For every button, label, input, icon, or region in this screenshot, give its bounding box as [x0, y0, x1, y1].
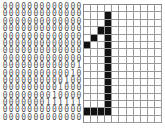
grid-cell: [119, 20, 126, 27]
matrix-row: 0000000000000: [2, 114, 82, 121]
grid-cell: [119, 5, 126, 12]
grid-cell: [155, 86, 162, 93]
grid-cell: [141, 49, 148, 56]
grid-cell: [127, 101, 134, 108]
grid-cell: [98, 27, 105, 34]
grid-cell: [105, 116, 112, 123]
grid-cell: [105, 86, 112, 93]
grid-cell: [155, 101, 162, 108]
grid-cell: [98, 86, 105, 93]
grid-cell: [148, 94, 155, 101]
grid-cell: [105, 20, 112, 27]
grid-cell: [127, 79, 134, 86]
grid-cell: [84, 116, 91, 123]
grid-cell: [84, 5, 91, 12]
grid-cell: [84, 12, 91, 19]
grid-cell: [112, 64, 119, 71]
grid-cell: [105, 5, 112, 12]
grid-cell: [112, 86, 119, 93]
grid-cell: [155, 27, 162, 34]
grid-cell: [112, 20, 119, 27]
grid-cell: [105, 12, 112, 19]
grid-cell: [141, 72, 148, 79]
grid-cell: [91, 79, 98, 86]
grid-cell: [91, 57, 98, 64]
grid-cell: [98, 12, 105, 19]
grid-cell: [98, 35, 105, 42]
grid-cell: [84, 57, 91, 64]
grid-cell: [127, 94, 134, 101]
grid-cell: [127, 108, 134, 115]
grid-cell: [141, 108, 148, 115]
grid-cell: [84, 27, 91, 34]
matrix-digit: 0: [76, 114, 82, 121]
grid-cell: [105, 72, 112, 79]
grid-cell: [141, 64, 148, 71]
grid-cell: [105, 35, 112, 42]
grid-cell: [112, 57, 119, 64]
grid-cell: [134, 42, 141, 49]
grid-cell: [112, 35, 119, 42]
grid-cell: [148, 35, 155, 42]
grid-cell: [155, 79, 162, 86]
grid-cell: [148, 20, 155, 27]
grid-cell: [134, 116, 141, 123]
grid-cell: [134, 72, 141, 79]
grid-cell: [119, 64, 126, 71]
grid-cell: [141, 116, 148, 123]
grid-cell: [91, 108, 98, 115]
grid-cell: [155, 12, 162, 19]
grid-cell: [98, 57, 105, 64]
grid-cell: [119, 116, 126, 123]
grid-cell: [105, 64, 112, 71]
grid-cell: [112, 101, 119, 108]
grid-cell: [98, 116, 105, 123]
grid-cell: [105, 42, 112, 49]
grid-cell: [148, 49, 155, 56]
grid-cell: [155, 108, 162, 115]
grid-cell: [148, 101, 155, 108]
grid-cell: [105, 101, 112, 108]
grid-cell: [134, 86, 141, 93]
grid-cell: [141, 27, 148, 34]
grid-cell: [91, 64, 98, 71]
grid-cell: [91, 94, 98, 101]
grid-cell: [112, 12, 119, 19]
grid-cell: [105, 49, 112, 56]
grid-cell: [84, 94, 91, 101]
grid-cell: [112, 116, 119, 123]
grid-cell: [98, 49, 105, 56]
grid-cell: [155, 57, 162, 64]
grid-cell: [134, 64, 141, 71]
grid-cell: [141, 35, 148, 42]
grid-cell: [127, 64, 134, 71]
grid-cell: [148, 108, 155, 115]
grid-cell: [112, 94, 119, 101]
grid-cell: [127, 49, 134, 56]
grid-cell: [127, 116, 134, 123]
grid-cell: [105, 57, 112, 64]
grid-cell: [134, 27, 141, 34]
grid-cell: [105, 94, 112, 101]
grid-cell: [134, 108, 141, 115]
grid-cell: [91, 116, 98, 123]
grid-cell: [127, 86, 134, 93]
grid-cell: [98, 42, 105, 49]
grid-cell: [148, 64, 155, 71]
grid-cell: [119, 72, 126, 79]
grid-cell: [84, 101, 91, 108]
grid-cell: [84, 86, 91, 93]
grid-cell: [141, 86, 148, 93]
grid-cell: [98, 94, 105, 101]
grid-cell: [112, 79, 119, 86]
grid-cell: [155, 5, 162, 12]
grid-cell: [134, 79, 141, 86]
grid-cell: [119, 86, 126, 93]
grid-cell: [141, 79, 148, 86]
grid-cell: [84, 42, 91, 49]
grid-cell: [127, 12, 134, 19]
grid-cell: [127, 42, 134, 49]
grid-cell: [84, 79, 91, 86]
grid-cell: [141, 57, 148, 64]
grid-cell: [134, 101, 141, 108]
